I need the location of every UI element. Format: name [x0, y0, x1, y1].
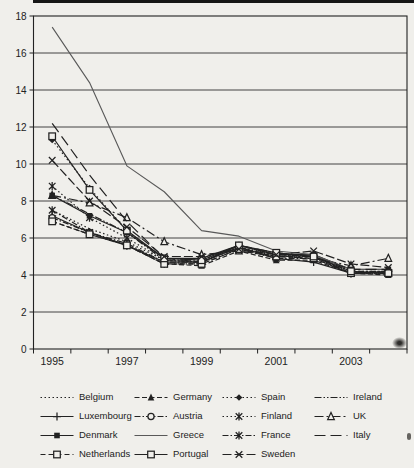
y-tick-label: 16 [15, 48, 27, 59]
legend-item-belgium: Belgium [40, 391, 134, 403]
series-greece [52, 27, 388, 269]
legend-key-denmark [40, 429, 74, 441]
legend-item-uk: UK [314, 410, 410, 422]
legend-label-denmark: Denmark [79, 429, 118, 441]
legend-label-ireland: Ireland [353, 391, 382, 403]
legend-label-spain: Spain [261, 391, 285, 403]
y-tick-label: 18 [15, 11, 27, 22]
legend-key-spain [222, 391, 256, 403]
y-tick-label: 2 [21, 307, 27, 318]
legend-key-uk [314, 410, 348, 422]
chart-canvas: 02468101214161819951997199920012003 [0, 0, 414, 380]
legend-key-italy [314, 429, 348, 441]
legend-key-belgium [40, 391, 74, 403]
legend-label-netherlands: Netherlands [79, 448, 130, 460]
y-tick-label: 10 [15, 159, 27, 170]
legend-label-austria: Austria [173, 410, 203, 422]
legend-key-greece [134, 429, 168, 441]
legend-item-sweden: Sweden [222, 448, 314, 460]
legend-key-ireland [314, 391, 348, 403]
legend-label-luxembourg: Luxembourg [79, 410, 132, 422]
legend-item-austria: Austria [134, 410, 222, 422]
legend-label-portugal: Portugal [173, 448, 208, 460]
legend-key-netherlands [40, 448, 74, 460]
legend-key-portugal [134, 448, 168, 460]
y-tick-label: 4 [21, 270, 27, 281]
legend-key-sweden [222, 448, 256, 460]
legend-item-italy: Italy [314, 429, 410, 441]
legend-label-belgium: Belgium [79, 391, 113, 403]
series-italy [52, 123, 388, 269]
scanned-line-chart-figure: 02468101214161819951997199920012003 Belg… [0, 0, 414, 468]
legend-item-france: France [222, 429, 314, 441]
plot-border [34, 16, 408, 349]
legend-label-sweden: Sweden [261, 448, 295, 460]
y-tick-label: 8 [21, 196, 27, 207]
legend-item-greece: Greece [134, 429, 222, 441]
series-spain [49, 137, 392, 277]
series-uk [49, 191, 392, 268]
chart-legend: BelgiumGermanySpainIrelandLuxembourgAust… [40, 391, 410, 460]
legend-label-germany: Germany [173, 391, 212, 403]
x-tick-label: 2001 [265, 355, 289, 367]
legend-label-france: France [261, 429, 291, 441]
legend-key-france [222, 429, 256, 441]
legend-item-portugal: Portugal [134, 448, 222, 460]
y-tick-label: 12 [15, 122, 27, 133]
legend-item-netherlands: Netherlands [40, 448, 134, 460]
series-belgium [52, 210, 388, 271]
y-tick-label: 6 [21, 233, 27, 244]
scan-smudge-artifact [392, 337, 407, 349]
series-germany [49, 217, 392, 278]
series-ireland [52, 195, 388, 273]
legend-key-luxembourg [40, 410, 74, 422]
legend-key-austria [134, 410, 168, 422]
x-tick-label: 2003 [339, 355, 363, 367]
legend-item-finland: Finland [222, 410, 314, 422]
legend-key-germany [134, 391, 168, 403]
x-tick-label: 1995 [40, 355, 64, 367]
legend-item-denmark: Denmark [40, 429, 134, 441]
y-tick-label: 0 [21, 344, 27, 355]
series-netherlands [49, 218, 392, 276]
x-tick-label: 1999 [190, 355, 214, 367]
legend-label-italy: Italy [353, 429, 370, 441]
legend-item-germany: Germany [134, 391, 222, 403]
legend-label-uk: UK [353, 410, 366, 422]
legend-item-luxembourg: Luxembourg [40, 410, 134, 422]
legend-label-finland: Finland [261, 410, 292, 422]
legend-item-ireland: Ireland [314, 391, 410, 403]
y-tick-label: 14 [15, 85, 27, 96]
legend-label-greece: Greece [173, 429, 204, 441]
legend-item-spain: Spain [222, 391, 314, 403]
legend-key-finland [222, 410, 256, 422]
series-finland [49, 182, 392, 277]
x-tick-label: 1997 [115, 355, 139, 367]
